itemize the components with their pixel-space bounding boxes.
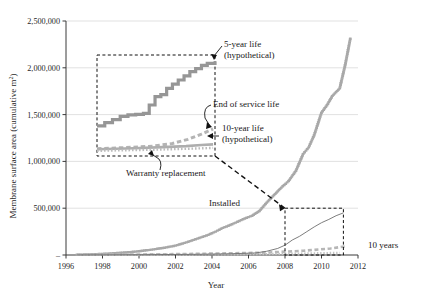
annotation-ten-year-life: (hypothetical) [222,134,272,144]
annotation-end-of-service-life: End of service life [213,99,279,109]
y-tick-label: 1,500,000 [27,111,60,120]
x-tick-label: 2012 [350,262,366,271]
annotation-five-year-life: 5-year life [224,39,261,49]
y-tick-label: 2,000,000 [27,64,60,73]
y-tick-label: 1,000,000 [27,157,60,166]
y-tick-label: 2,500,000 [27,17,60,26]
y-axis-title: Membrane surface area (cumulative m2) [8,74,18,219]
x-tick-label: 1998 [94,262,110,271]
x-tick-labels: 199619982000200220042006200820102012 [58,262,366,271]
x-tick-label: 2002 [167,262,183,271]
x-tick-label: 1996 [58,262,74,271]
x-tick-label: 2000 [131,262,147,271]
annotation-ten-years: 10 years [368,240,399,250]
x-tick-label: 2010 [313,262,329,271]
x-tick-label: 2004 [204,262,220,271]
annotation-ten-year-life: 10-year life [222,123,264,133]
x-tick-label: 2008 [277,262,293,271]
chart-figure: –500,0001,000,0001,500,0002,000,0002,500… [0,0,424,292]
annotation-five-year-life: (hypothetical) [224,50,274,60]
annotation-installed: Installed [209,198,240,208]
x-tick-label: 2006 [240,262,256,271]
y-tick-label: 500,000 [33,204,60,213]
annotation-warranty-replacement: Warranty replacement [126,168,206,178]
membrane-surface-area-chart: –500,0001,000,0001,500,0002,000,0002,500… [0,0,424,292]
chart-background [0,0,424,292]
x-axis-title: Year [208,280,225,290]
